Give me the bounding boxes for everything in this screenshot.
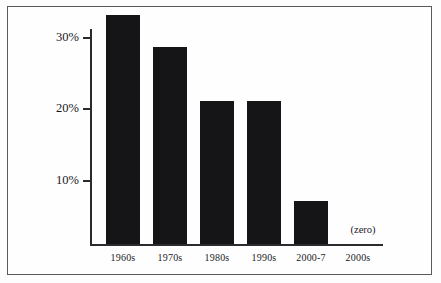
bar-2000-7 xyxy=(294,201,328,244)
x-label-1960s: 1960s xyxy=(101,252,145,263)
x-label-1990s: 1990s xyxy=(242,252,286,263)
x-label-2000s: 2000s xyxy=(336,252,380,263)
bars-group xyxy=(0,0,441,244)
chart-figure: 30% 20% 10% (zero) 1960s 1970s 1980s 199… xyxy=(0,0,441,283)
zero-annotation: (zero) xyxy=(341,224,385,235)
x-label-1970s: 1970s xyxy=(148,252,192,263)
bar-1960s xyxy=(106,15,140,244)
x-axis-line xyxy=(90,244,383,246)
x-label-2000-7: 2000-7 xyxy=(289,252,333,263)
bar-1980s xyxy=(200,101,234,244)
plot-area: 30% 20% 10% (zero) 1960s 1970s 1980s 199… xyxy=(0,0,441,283)
x-label-1980s: 1980s xyxy=(195,252,239,263)
bar-1970s xyxy=(153,47,187,244)
bar-1990s xyxy=(247,101,281,244)
